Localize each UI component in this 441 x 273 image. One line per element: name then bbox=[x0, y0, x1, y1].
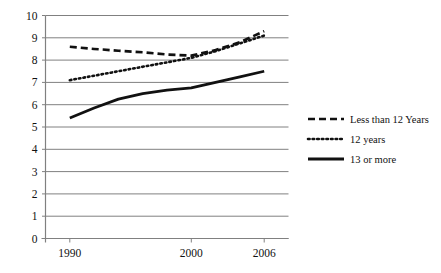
series-line bbox=[70, 31, 264, 56]
chart-legend: Less than 12 Years12 years13 or more bbox=[308, 114, 429, 165]
x-tick-label: 1990 bbox=[58, 247, 81, 259]
x-tick-label: 2000 bbox=[180, 247, 203, 259]
x-axis-tick-labels: 199020002006 bbox=[58, 247, 276, 259]
y-tick-label: 7 bbox=[32, 76, 38, 88]
series-line bbox=[70, 36, 264, 81]
y-tick-label: 4 bbox=[32, 143, 38, 155]
y-tick-label: 6 bbox=[32, 99, 38, 111]
chart-figure: 012345678910 199020002006 Less than 12 Y… bbox=[0, 0, 441, 273]
y-tick-label: 0 bbox=[32, 233, 38, 245]
y-tick-label: 10 bbox=[26, 10, 38, 22]
y-axis-tick-labels: 012345678910 bbox=[26, 10, 46, 245]
y-tick-label: 5 bbox=[32, 121, 38, 133]
series-line bbox=[70, 71, 264, 118]
legend-label: 13 or more bbox=[350, 154, 396, 165]
y-tick-label: 3 bbox=[32, 166, 38, 178]
legend-label: Less than 12 Years bbox=[350, 114, 429, 125]
y-tick-label: 8 bbox=[32, 54, 38, 66]
axis-lines-group bbox=[42, 16, 289, 243]
legend-label: 12 years bbox=[350, 134, 385, 145]
x-tick-label: 2006 bbox=[253, 247, 276, 259]
line-chart: 012345678910 199020002006 Less than 12 Y… bbox=[0, 0, 441, 273]
y-tick-label: 2 bbox=[32, 188, 38, 200]
x-tick-marks-group bbox=[70, 239, 264, 243]
y-tick-label: 1 bbox=[32, 210, 38, 222]
y-tick-label: 9 bbox=[32, 32, 38, 44]
